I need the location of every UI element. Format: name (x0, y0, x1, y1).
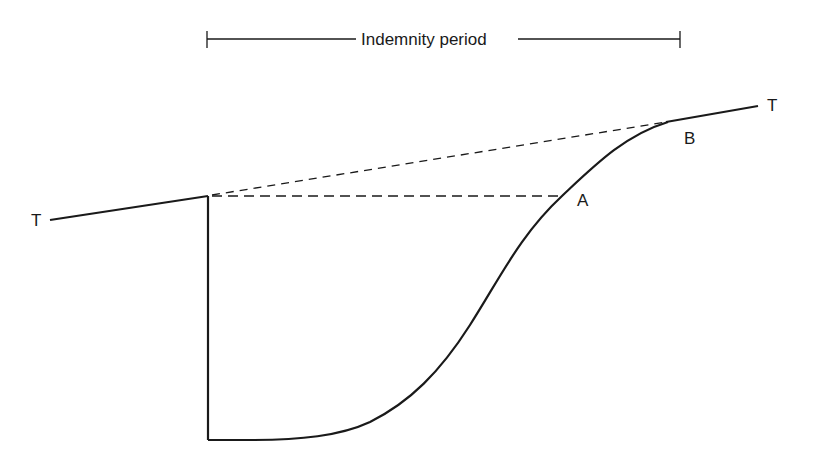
point-a-label: A (577, 192, 588, 209)
recovery-curve (208, 122, 668, 440)
trend-line-left (50, 196, 208, 220)
trend-label-right: T (767, 97, 777, 114)
trend-line-right (666, 106, 758, 122)
indemnity-period-label: Indemnity period (358, 31, 490, 48)
projected-trend-dashed (212, 122, 666, 195)
diagram-canvas (0, 0, 816, 473)
point-b-label: B (684, 130, 695, 147)
indemnity-period-diagram: Indemnity period T T A B (0, 0, 816, 473)
trend-label-left: T (31, 212, 41, 229)
